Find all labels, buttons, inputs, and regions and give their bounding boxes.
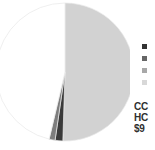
pie-slice-0[interactable]: [63, 3, 130, 141]
chart-caption: CC HC $9: [134, 101, 155, 134]
pie-chart-screenshot: CC HC $9: [0, 0, 155, 150]
legend-item-3[interactable]: [140, 77, 155, 89]
legend-swatch-2: [142, 68, 147, 73]
legend-swatch-1: [142, 56, 147, 61]
caption-line-0: CC: [134, 101, 155, 112]
legend-swatch-0: [142, 44, 147, 49]
legend-item-0[interactable]: [140, 41, 155, 53]
legend-swatch-3: [142, 80, 147, 85]
pie-slices: [0, 3, 130, 141]
legend-item-1[interactable]: [140, 53, 155, 65]
caption-line-2: $9: [134, 123, 155, 134]
chart-legend: [140, 41, 155, 89]
pie-chart-svg: [0, 0, 130, 150]
pie-chart-area: [0, 0, 130, 150]
caption-line-1: HC: [134, 112, 155, 123]
legend-item-2[interactable]: [140, 65, 155, 77]
